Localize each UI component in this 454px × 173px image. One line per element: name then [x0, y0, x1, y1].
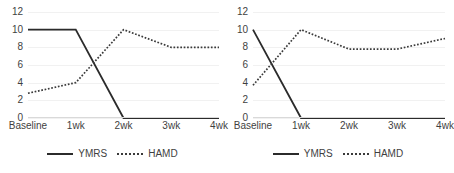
x-axis-tick-label: 1wk: [292, 120, 310, 132]
x-axis-tick-label: 2wk: [340, 120, 358, 132]
y-axis-tick-label: 4: [242, 78, 248, 88]
plot-area-right: [253, 12, 445, 118]
legend-label: HAMD: [374, 149, 403, 159]
series-line-ymrs: [253, 30, 445, 118]
plot-wrapper-left: 121086420 Baseline1wk2wk3wk4wk: [0, 0, 225, 128]
legend-right: YMRSHAMD: [225, 146, 451, 162]
chart-panel-left: 121086420 Baseline1wk2wk3wk4wk YMRSHAMD: [0, 0, 225, 173]
y-axis-tick-label: 12: [12, 7, 23, 17]
y-axis-tick-label: 8: [17, 42, 23, 52]
legend-key-dotted-line-icon: [117, 150, 143, 158]
y-axis-tick-label: 2: [17, 95, 23, 105]
legend-label: HAMD: [148, 149, 177, 159]
y-axis-tick-label: 12: [237, 7, 248, 17]
y-axis-tick-label: 10: [12, 25, 23, 35]
legend-item-ymrs[interactable]: YMRS: [273, 149, 333, 159]
y-axis-tick-label: 10: [237, 25, 248, 35]
chart-panel-right: 121086420 Baseline1wk2wk3wk4wk YMRSHAMD: [225, 0, 451, 173]
legend-key-solid-line-icon: [273, 150, 299, 158]
legend-label: YMRS: [304, 149, 333, 159]
x-axis-tick-label: 3wk: [388, 120, 406, 132]
legend-key-solid-line-icon: [47, 150, 73, 158]
y-axis-tick-labels-right: 121086420: [225, 0, 251, 128]
x-axis-tick-label: 3wk: [162, 120, 180, 132]
legend-left: YMRSHAMD: [0, 146, 225, 162]
x-axis-tick-label: 2wk: [115, 120, 133, 132]
y-axis-tick-labels-left: 121086420: [0, 0, 26, 128]
y-axis-tick-label: 6: [242, 60, 248, 70]
y-axis-tick-label: 6: [17, 60, 23, 70]
legend-item-hamd[interactable]: HAMD: [343, 149, 403, 159]
y-axis-tick-label: 4: [17, 78, 23, 88]
x-axis-tick-label: 4wk: [436, 120, 454, 132]
x-axis-line-left: [28, 117, 219, 118]
legend-label: YMRS: [78, 149, 107, 159]
x-axis-tick-label: 1wk: [67, 120, 85, 132]
series-line-hamd: [253, 30, 445, 86]
series-canvas-left: [28, 12, 219, 118]
x-axis-line-right: [253, 117, 445, 118]
series-line-hamd: [28, 30, 219, 94]
legend-item-hamd[interactable]: HAMD: [117, 149, 177, 159]
series-canvas-right: [253, 12, 445, 118]
legend-item-ymrs[interactable]: YMRS: [47, 149, 107, 159]
plot-area-left: [28, 12, 219, 118]
y-axis-tick-label: 8: [242, 42, 248, 52]
x-axis-tick-label: Baseline: [234, 120, 272, 132]
y-axis-tick-label: 2: [242, 95, 248, 105]
x-axis-tick-labels-right: Baseline1wk2wk3wk4wk: [253, 120, 445, 136]
x-axis-tick-label: Baseline: [9, 120, 47, 132]
x-axis-tick-labels-left: Baseline1wk2wk3wk4wk: [28, 120, 219, 136]
plot-wrapper-right: 121086420 Baseline1wk2wk3wk4wk: [225, 0, 451, 128]
series-line-ymrs: [28, 30, 219, 118]
legend-key-dotted-line-icon: [343, 150, 369, 158]
